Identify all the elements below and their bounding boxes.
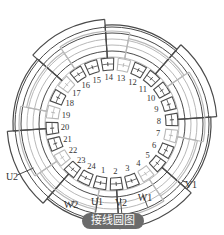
svg-text:W2: W2 [64,199,78,210]
slot-number-labels: 123456789101112131415161718192021222324 [61,72,161,176]
slot-number-9: 9 [154,104,158,114]
slot-number-4: 4 [136,158,141,168]
slot-number-16: 16 [81,80,90,90]
terminal-v1: V1 [182,179,197,190]
terminal-u1: U1 [91,196,103,213]
svg-text:V1: V1 [185,179,197,190]
coil-slot-13 [117,58,131,72]
coil-slot-7 [164,129,178,143]
slot-number-12: 12 [128,77,137,87]
slot-number-8: 8 [157,116,161,126]
connection-ring-3 [27,39,197,209]
terminal-w2: W2 [64,199,78,210]
coil-slot-14 [101,58,114,71]
coil-slot-18 [50,90,66,106]
slot-number-3: 3 [125,163,129,173]
coil-slot-2 [110,177,123,190]
coil-slot-1 [93,176,107,190]
coil-slot-19 [46,105,60,119]
slot-number-14: 14 [104,72,113,82]
svg-text:V2: V2 [115,197,127,208]
coil-slot-6 [158,143,174,159]
concentric-rings [15,27,209,221]
coil-slot-12 [131,62,147,78]
coil-slot-24 [78,170,94,186]
slot-number-23: 23 [77,155,86,165]
slot-number-11: 11 [139,84,147,94]
coil-slot-4 [138,166,154,182]
svg-text:U1: U1 [91,196,103,207]
slot-number-21: 21 [63,134,72,144]
svg-text:W1: W1 [138,192,152,203]
slot-number-6: 6 [152,140,156,150]
slot-number-24: 24 [87,161,96,171]
coil-slot-5 [149,155,166,172]
connection-ring-4 [33,45,191,203]
diagram-caption: 接线圆图 [82,213,144,229]
svg-text:U2: U2 [6,171,18,182]
slot-number-7: 7 [156,128,160,138]
coil-slot-8 [165,113,178,126]
winding-circle-diagram: 123456789101112131415161718192021222324 … [0,0,224,235]
coil-slot-10 [154,82,170,98]
slot-number-15: 15 [92,75,101,85]
slot-number-1: 1 [101,165,105,175]
slot-number-10: 10 [147,93,156,103]
slot-number-13: 13 [117,73,126,83]
slot-number-18: 18 [66,98,75,108]
coil-slot-20 [46,122,59,135]
slot-number-20: 20 [61,122,70,132]
slot-number-5: 5 [145,150,149,160]
slot-number-17: 17 [72,88,81,98]
slot-number-2: 2 [113,166,117,176]
connection-ring-2 [21,33,203,215]
terminal-v2: V2 [115,197,127,214]
slot-number-19: 19 [62,110,71,120]
connection-ring-1 [15,27,209,221]
